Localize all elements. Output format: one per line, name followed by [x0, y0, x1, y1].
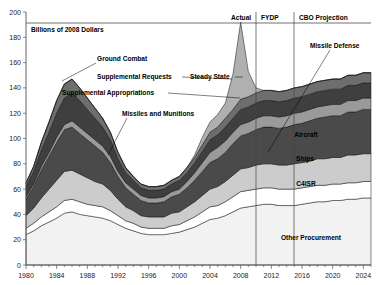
- x-tick-label: 2012: [264, 272, 280, 279]
- annotation-c4isr: C4ISR: [296, 180, 316, 187]
- x-tick-label: 1988: [80, 272, 96, 279]
- y-tick-label: 40: [13, 211, 21, 218]
- annotation-supplemental-requests: Supplemental Requests: [97, 73, 172, 81]
- x-tick-label: 1992: [110, 272, 126, 279]
- y-axis-ticks: 020406080100120140160180200: [9, 9, 26, 269]
- x-tick-label: 1996: [141, 272, 157, 279]
- y-tick-label: 80: [13, 160, 21, 167]
- unit-label-group: Billions of 2008 Dollars: [31, 26, 104, 33]
- y-tick-label: 200: [9, 9, 21, 16]
- x-tick-label: 2020: [325, 272, 341, 279]
- y-tick-label: 180: [9, 34, 21, 41]
- x-tick-label: 1984: [49, 272, 65, 279]
- annotation-ground-combat: Ground Combat: [97, 55, 148, 62]
- y-tick-label: 60: [13, 186, 21, 193]
- annotation-missiles-and-munitions: Missiles and Munitions: [122, 110, 195, 117]
- header-cbo-projection: CBO Projection: [299, 14, 348, 22]
- header-actual: Actual: [231, 14, 251, 21]
- y-tick-label: 120: [9, 110, 21, 117]
- y-tick-label: 160: [9, 59, 21, 66]
- unit-label: Billions of 2008 Dollars: [31, 26, 104, 33]
- annotation-supplemental-appropriations: Supplemental Appropriations: [62, 89, 154, 97]
- annotation-steady-state: Steady State: [190, 73, 230, 81]
- annotation-missile-defense: Missile Defense: [310, 42, 360, 49]
- chart-svg: Actual FYDP CBO Projection Billions of 2…: [0, 0, 377, 285]
- x-tick-label: 2008: [233, 272, 249, 279]
- annotation-ships: Ships: [296, 155, 314, 163]
- y-tick-label: 20: [13, 236, 21, 243]
- x-tick-label: 1980: [18, 272, 34, 279]
- x-tick-label: 2000: [172, 272, 188, 279]
- y-tick-label: 100: [9, 135, 21, 142]
- x-tick-label: 2004: [202, 272, 218, 279]
- x-axis-ticks: 1980198419881992199620002004200820122016…: [18, 265, 371, 279]
- x-tick-label: 2024: [356, 272, 372, 279]
- x-tick-label: 2016: [294, 272, 310, 279]
- procurement-area-chart: Actual FYDP CBO Projection Billions of 2…: [0, 0, 377, 285]
- annotation-other-procurement: Other Procurement: [281, 234, 342, 241]
- header-fydp: FYDP: [261, 14, 279, 21]
- annotation-aircraft: Aircraft: [294, 131, 318, 138]
- y-tick-label: 140: [9, 84, 21, 91]
- y-tick-label: 0: [17, 262, 21, 269]
